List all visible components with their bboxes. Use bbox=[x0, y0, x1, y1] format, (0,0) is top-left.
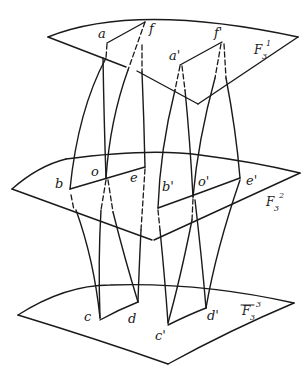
segment-a-f-prime bbox=[180, 42, 222, 65]
segment-c-d-prime bbox=[168, 308, 206, 325]
curve-b-c-prime bbox=[160, 230, 168, 323]
label-f-prime: f' bbox=[213, 25, 222, 40]
sheet-bottom bbox=[18, 285, 294, 364]
curve-a-o-prime-hidden bbox=[182, 66, 185, 90]
curve-e-d bbox=[138, 230, 141, 302]
curve-o-c bbox=[99, 210, 101, 318]
curve-a-o-prime bbox=[185, 90, 193, 197]
curve-a-b-prime-hidden bbox=[175, 66, 180, 90]
sheet-label-top: F 3 1 bbox=[253, 39, 271, 61]
curve-b-c-prime-hidden bbox=[158, 210, 160, 230]
label-d: d bbox=[128, 311, 136, 326]
curve-f-o bbox=[106, 70, 128, 178]
curve-o-d-hidden bbox=[108, 180, 113, 212]
label-b-prime: b' bbox=[162, 179, 174, 194]
label-a: a bbox=[98, 26, 106, 41]
curve-o-c-hidden bbox=[101, 180, 106, 210]
sheet-top-upper-edge bbox=[48, 20, 298, 38]
label-c-prime: c' bbox=[155, 328, 166, 343]
sheet-middle-lower-left-edge bbox=[12, 189, 152, 240]
curve-a-o bbox=[103, 58, 106, 178]
sheet-top-left-edge bbox=[48, 37, 126, 67]
curve-a-b bbox=[70, 58, 106, 189]
sheet-label-middle: F 3 2 bbox=[265, 191, 284, 213]
curve-e-d-hidden bbox=[141, 169, 145, 230]
sheet-bottom-left-edge bbox=[18, 315, 168, 364]
leaf-diagram: a f a' f' b o e b' o' e' c d c' d' F 3 1… bbox=[0, 0, 308, 377]
label-o: o bbox=[91, 164, 99, 179]
label-c: c bbox=[84, 309, 92, 324]
label-e-prime: e' bbox=[246, 173, 257, 188]
label-a-prime: a' bbox=[169, 48, 180, 63]
label-b: b bbox=[55, 176, 63, 191]
sheet-label-middle-sup: 2 bbox=[278, 191, 284, 200]
sheet-middle bbox=[12, 152, 300, 240]
sheet-label-bottom-sup: 3 bbox=[256, 300, 261, 309]
sheet-bottom-right-edge bbox=[168, 303, 294, 364]
curve-f-e-prime-hidden bbox=[224, 44, 226, 78]
sheet-label-top-sup: 1 bbox=[266, 39, 271, 48]
sheet-middle-upper-edge bbox=[66, 152, 300, 173]
curve-f-e-prime bbox=[226, 78, 240, 178]
curve-b-c bbox=[76, 210, 100, 318]
point-labels: a f a' f' b o e b' o' e' c d c' d' bbox=[55, 21, 257, 343]
curve-o-c-prime bbox=[168, 220, 192, 323]
label-d-prime: d' bbox=[207, 308, 219, 323]
sheet-top-lower-left-edge bbox=[137, 71, 198, 104]
curve-a-b-hidden bbox=[106, 44, 107, 58]
curve-o-d bbox=[113, 212, 138, 302]
label-e: e bbox=[130, 170, 138, 185]
curve-f-o-prime-hidden bbox=[215, 44, 221, 78]
sheet-label-middle-sub: 3 bbox=[274, 204, 279, 213]
label-f: f bbox=[148, 21, 156, 36]
curve-o-c-prime-hidden bbox=[192, 199, 193, 220]
sheet-bottom-upper-edge bbox=[18, 285, 294, 315]
sheet-label-top-sub: 3 bbox=[262, 52, 267, 61]
sheet-label-bottom-sub: 3 bbox=[250, 313, 255, 322]
curve-b-c-hidden bbox=[71, 195, 74, 210]
label-o-prime: o' bbox=[198, 174, 209, 189]
